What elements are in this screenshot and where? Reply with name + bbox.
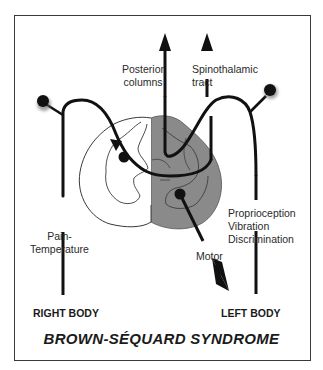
right-body-receptor-dot	[37, 95, 49, 107]
left-body-label: LEFT BODY	[221, 307, 281, 319]
diagram-title: BROWN-SÉQUARD SYNDROME	[0, 330, 323, 347]
pain-temperature-label: Pain- Temperature	[30, 230, 89, 256]
proprioception-label: Proprioception Vibration Discrimination	[228, 207, 296, 246]
right-body-label: RIGHT BODY	[33, 307, 99, 319]
dorsal-horn-neuron	[119, 152, 130, 163]
spinothalamic-tract-label: Spinothalamic tract	[192, 63, 258, 89]
motor-label: Motor	[196, 250, 223, 263]
posterior-columns-label: Posterior columns	[122, 63, 164, 89]
left-body-receptor-dot	[264, 84, 276, 96]
